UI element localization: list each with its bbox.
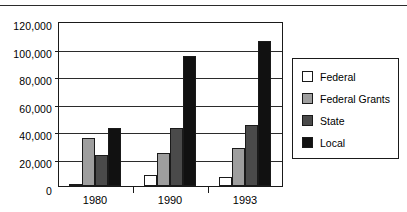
y-tick-label-0: 0: [46, 185, 52, 197]
y-tick-label-40000: 40,000: [19, 130, 52, 142]
chart-legend: Federal Federal Grants State Local: [292, 58, 399, 159]
x-tick-label-1990: 1990: [158, 194, 182, 206]
legend-label-state: State: [320, 115, 345, 127]
legend-label-federal: Federal: [320, 71, 356, 83]
x-tick-mark-1: [133, 187, 134, 193]
x-tick-mark-2: [208, 187, 209, 193]
bar-1990-federal-grants: [157, 153, 170, 186]
bars-layer: [59, 23, 282, 186]
bar-group-1993: [219, 23, 271, 186]
legend-swatch-federal-grants-icon: [302, 93, 313, 104]
bar-1993-local: [258, 41, 271, 186]
bar-1990-local: [183, 56, 196, 186]
legend-label-local: Local: [320, 137, 345, 149]
plot-axes-frame: [58, 22, 283, 187]
x-tick-label-1993: 1993: [233, 194, 257, 206]
legend-item-state: State: [302, 110, 398, 131]
legend-item-local: Local: [302, 132, 398, 153]
bar-1980-state: [95, 155, 108, 186]
plot-area-wrapper: 120,000 100,000 80,000 60,000 40,000 20,…: [0, 18, 290, 193]
x-axis-area: 1980 1990 1993: [58, 187, 283, 212]
y-tick-label-20000: 20,000: [19, 158, 52, 170]
bar-1980-local: [108, 128, 121, 186]
legend-swatch-state-icon: [302, 115, 313, 126]
y-tick-label-120000: 120,000: [13, 20, 52, 32]
bar-1990-state: [170, 128, 183, 186]
bar-group-1990: [144, 23, 196, 186]
bar-1993-federal: [219, 177, 232, 187]
legend-swatch-federal-icon: [302, 71, 313, 82]
legend-swatch-local-icon: [302, 137, 313, 148]
bar-1980-federal: [69, 184, 82, 186]
bar-chart-figure: 120,000 100,000 80,000 60,000 40,000 20,…: [0, 0, 407, 212]
x-tick-label-1980: 1980: [83, 194, 107, 206]
bar-1990-federal: [144, 175, 157, 186]
bar-1980-federal-grants: [82, 138, 95, 186]
legend-item-federal: Federal: [302, 66, 398, 87]
y-axis-tick-labels: 120,000 100,000 80,000 60,000 40,000 20,…: [0, 18, 56, 193]
top-divider-rule: [0, 5, 407, 6]
y-tick-label-100000: 100,000: [13, 48, 52, 60]
y-tick-label-60000: 60,000: [19, 103, 52, 115]
bar-group-1980: [69, 23, 121, 186]
y-tick-label-80000: 80,000: [19, 75, 52, 87]
bar-1993-federal-grants: [232, 148, 245, 186]
bar-1993-state: [245, 125, 258, 186]
legend-item-federal-grants: Federal Grants: [302, 88, 398, 109]
legend-label-federal-grants: Federal Grants: [320, 93, 390, 105]
